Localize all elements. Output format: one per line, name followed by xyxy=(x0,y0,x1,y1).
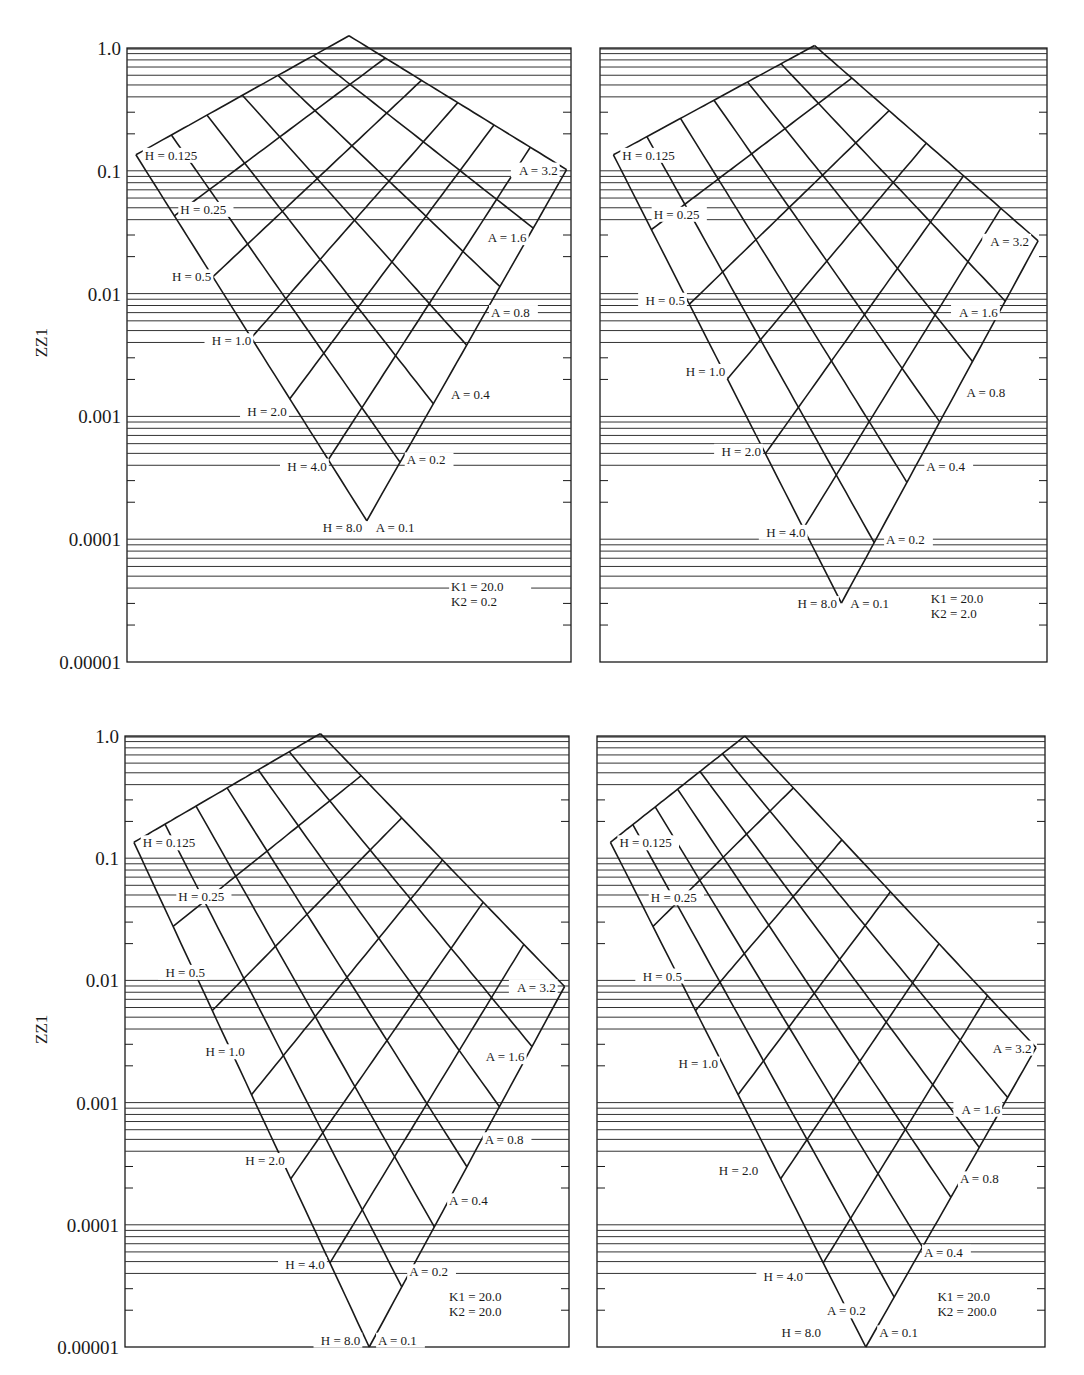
nomogram-figure: 1.00.10.010.0010.00010.00001ZZ1H = 0.125… xyxy=(0,0,1084,1375)
y-tick-label: 1.0 xyxy=(95,726,119,747)
y-tick-label: 0.001 xyxy=(76,1093,119,1114)
chart-panel-top-right: H = 0.125H = 0.25H = 0.5H = 1.0H = 2.0H … xyxy=(600,46,1047,663)
curve-label: H = 0.25 xyxy=(654,207,700,222)
curve-label: A = 0.1 xyxy=(850,596,889,611)
chart-panel-bottom-right: H = 0.125H = 0.25H = 0.5H = 1.0H = 2.0H … xyxy=(597,736,1045,1347)
curve-label: H = 0.125 xyxy=(143,835,195,850)
y-tick-label: 1.0 xyxy=(97,38,121,59)
curve-label: A = 0.2 xyxy=(407,452,446,467)
curve-label: H = 2.0 xyxy=(719,1163,758,1178)
curve-label: A = 3.2 xyxy=(517,980,556,995)
a-curve xyxy=(278,75,500,286)
curve-label: H = 0.125 xyxy=(619,835,671,850)
curve-label: H = 8.0 xyxy=(797,596,836,611)
a-curve xyxy=(320,734,564,987)
curve-label: H = 4.0 xyxy=(766,525,805,540)
curve-label: H = 4.0 xyxy=(287,459,326,474)
curve-label: A = 0.4 xyxy=(924,1245,963,1260)
a-curve xyxy=(681,118,907,482)
k1-label: K1 = 20.0 xyxy=(449,1289,501,1304)
y-tick-label: 0.1 xyxy=(97,161,121,182)
curve-label: H = 0.25 xyxy=(651,890,697,905)
a-curve xyxy=(207,115,434,404)
curve-label: H = 1.0 xyxy=(686,364,725,379)
curve-label: H = 1.0 xyxy=(212,333,251,348)
curve-label: A = 0.1 xyxy=(378,1333,417,1348)
curve-label: H = 2.0 xyxy=(247,404,286,419)
curve-label: A = 0.8 xyxy=(960,1171,999,1186)
curve-label: H = 0.125 xyxy=(145,148,197,163)
curve-label: A = 0.8 xyxy=(967,385,1006,400)
curve-label: H = 0.25 xyxy=(178,889,224,904)
curve-label: H = 2.0 xyxy=(245,1153,284,1168)
y-tick-label: 0.1 xyxy=(95,848,119,869)
curve-label: A = 0.4 xyxy=(451,387,490,402)
curve-label: A = 0.1 xyxy=(376,520,415,535)
curve-label: H = 2.0 xyxy=(721,444,760,459)
plot-frame xyxy=(125,736,569,1347)
curve-label: A = 3.2 xyxy=(519,163,558,178)
a-curve xyxy=(714,100,940,422)
h-curve-0.125 xyxy=(613,46,814,155)
y-tick-label: 0.01 xyxy=(88,284,121,305)
curve-label: H = 8.0 xyxy=(323,520,362,535)
h-curve-0.125 xyxy=(610,736,744,842)
a-curve xyxy=(349,36,567,170)
curve-label: H = 0.5 xyxy=(645,293,684,308)
y-axis-title: ZZ1 xyxy=(32,328,51,357)
y-tick-label: 0.0001 xyxy=(69,529,121,550)
curve-label: H = 1.0 xyxy=(678,1056,717,1071)
y-axis-title: ZZ1 xyxy=(32,1015,51,1044)
curve-label: H = 0.25 xyxy=(180,202,226,217)
a-curve xyxy=(134,842,369,1347)
a-curve xyxy=(610,842,865,1347)
k1-label: K1 = 20.0 xyxy=(451,579,503,594)
curve-label: A = 0.2 xyxy=(409,1264,448,1279)
curve-label: H = 8.0 xyxy=(782,1325,821,1340)
chart-panel-bottom-left: 1.00.10.010.0010.00010.00001ZZ1H = 0.125… xyxy=(32,726,569,1358)
curve-label: H = 1.0 xyxy=(205,1044,244,1059)
curve-label: A = 0.4 xyxy=(926,459,965,474)
k1-label: K1 = 20.0 xyxy=(937,1289,989,1304)
curve-label: A = 1.6 xyxy=(961,1102,1000,1117)
k2-label: K2 = 0.2 xyxy=(451,594,497,609)
curve-label: A = 0.2 xyxy=(886,532,925,547)
curve-label: A = 0.4 xyxy=(449,1193,488,1208)
curve-label: H = 0.125 xyxy=(622,148,674,163)
a-curve xyxy=(242,95,466,345)
curve-label: A = 1.6 xyxy=(959,305,998,320)
a-curve xyxy=(678,789,951,1197)
curve-label: H = 0.5 xyxy=(172,269,211,284)
a-curve xyxy=(196,806,434,1227)
curve-label: A = 0.8 xyxy=(485,1132,524,1147)
curve-label: H = 4.0 xyxy=(285,1257,324,1272)
y-tick-label: 0.00001 xyxy=(59,652,121,673)
y-tick-label: 0.01 xyxy=(86,970,119,991)
k2-label: K2 = 2.0 xyxy=(931,606,977,621)
curve-label: A = 0.1 xyxy=(879,1325,918,1340)
curve-label: H = 0.5 xyxy=(643,969,682,984)
plot-frame xyxy=(597,736,1045,1347)
y-tick-label: 0.0001 xyxy=(67,1215,119,1236)
curve-label: A = 3.2 xyxy=(993,1041,1032,1056)
curve-label: A = 0.8 xyxy=(491,305,530,320)
chart-panel-top-left: 1.00.10.010.0010.00010.00001ZZ1H = 0.125… xyxy=(32,36,571,673)
curve-label: A = 3.2 xyxy=(990,234,1029,249)
k1-label: K1 = 20.0 xyxy=(931,591,983,606)
plot-frame xyxy=(600,48,1047,662)
k2-label: K2 = 200.0 xyxy=(937,1304,996,1319)
curve-label: A = 1.6 xyxy=(486,1049,525,1064)
curve-label: H = 4.0 xyxy=(764,1269,803,1284)
curve-label: H = 0.5 xyxy=(165,965,204,980)
y-tick-label: 0.001 xyxy=(78,406,121,427)
a-curve xyxy=(722,754,1007,1098)
curve-label: A = 1.6 xyxy=(488,230,527,245)
plot-frame xyxy=(127,48,571,662)
y-tick-label: 0.00001 xyxy=(57,1337,119,1358)
curve-label: H = 8.0 xyxy=(321,1333,360,1348)
a-curve xyxy=(258,770,499,1107)
curve-label: A = 0.2 xyxy=(827,1303,866,1318)
k2-label: K2 = 20.0 xyxy=(449,1304,501,1319)
chart-panels: 1.00.10.010.0010.00010.00001ZZ1H = 0.125… xyxy=(32,36,1047,1358)
